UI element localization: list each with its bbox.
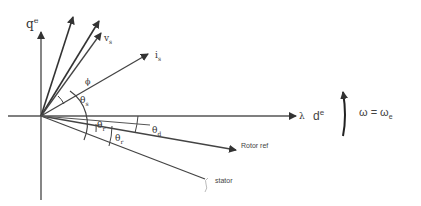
stator-squiggle <box>205 178 208 192</box>
phi-label: ϕ <box>85 77 91 86</box>
vector-2 <box>41 21 99 116</box>
vector-diagram: qe λ de vs is Rotor ref stator ϕ θs θr θ… <box>0 0 421 206</box>
rotor-ref-label: Rotor ref <box>241 142 268 149</box>
theta-d-arc <box>135 116 138 133</box>
rotation-arrow <box>343 92 345 136</box>
phi-arc <box>58 96 64 104</box>
voltage-vector <box>41 33 101 116</box>
rotor-ref-vector <box>41 116 236 150</box>
current-vector <box>41 54 148 116</box>
lambda-label: λ <box>299 111 305 121</box>
voltage-label: vs <box>103 33 112 45</box>
stator-label: stator <box>215 177 233 184</box>
q-axis-label: qe <box>26 16 39 31</box>
vector-1 <box>41 17 73 116</box>
theta-sl-label: θr <box>115 133 123 145</box>
theta-r-label: θr <box>97 120 105 132</box>
d-axis-label: de <box>313 108 325 123</box>
theta-s-label: θs <box>80 95 89 107</box>
current-label: is <box>155 50 161 62</box>
rotation-equation: ω = ωe <box>359 106 393 120</box>
short-ref-line <box>41 116 150 125</box>
stator-vector <box>41 116 205 179</box>
